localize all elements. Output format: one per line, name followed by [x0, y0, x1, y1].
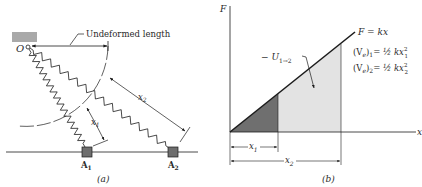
x-axis-label: x: [417, 127, 422, 137]
point-o-label: O: [16, 43, 24, 54]
panel-b: F x F = kx (Ve)1= ½ kx21 (Ve)2= ½ kx22 −…: [219, 4, 422, 184]
x2-extension: [180, 127, 190, 142]
ceiling-support: [12, 32, 37, 42]
undeformed-length-label: Undeformed length: [86, 29, 171, 39]
diagram: O Undeformed length A1 A2 x2 x1 (a): [0, 0, 422, 187]
undeformed-arc: [18, 46, 108, 126]
x1-extension: [93, 140, 108, 146]
x1-dimension-label: x1: [91, 117, 100, 128]
undeformed-leader: [70, 34, 84, 45]
work-label: − U1→2: [261, 52, 292, 64]
block-a2-label: A2: [167, 160, 179, 171]
panel-a-caption: (a): [97, 174, 110, 184]
block-a1: [82, 147, 92, 157]
block-a2: [168, 147, 178, 157]
pivot-o: [26, 45, 30, 49]
x2-dimension-label: x2: [138, 92, 147, 103]
ve1-equation: (Ve)1= ½ kx21: [353, 46, 408, 59]
panel-a: O Undeformed length A1 A2 x2 x1 (a): [6, 29, 198, 184]
panel-b-caption: (b): [322, 174, 335, 184]
spring-to-a2: [30, 48, 169, 148]
spring-to-a1: [29, 49, 85, 147]
f-axis-label: F: [219, 4, 227, 14]
block-a1-label: A1: [80, 160, 92, 171]
force-line-label: F = kx: [357, 27, 388, 37]
ve2-equation: (Ve)2= ½ kx22: [353, 62, 408, 75]
x2-dimension-line: [110, 78, 185, 131]
